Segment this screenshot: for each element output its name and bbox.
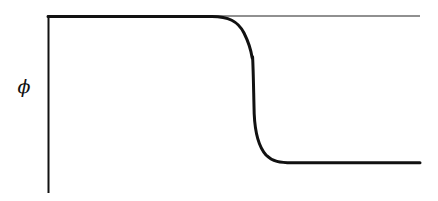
y-axis-label-phi: ϕ xyxy=(18,75,31,97)
kink-profile-plot: ϕ xyxy=(0,0,438,201)
figure-root: ϕ xyxy=(0,0,438,201)
plot-background xyxy=(0,0,438,201)
